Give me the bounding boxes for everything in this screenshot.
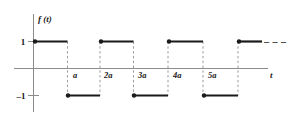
y-tick-label-positive-one: 1 [21,37,26,47]
continuation-ellipsis: – – – [263,36,287,47]
x-tick-label-4a: 4a [172,70,182,80]
dot-high-3 [167,39,171,43]
y-tick-label-negative-one: –1 [16,91,27,101]
dot-low-3 [202,93,206,97]
x-tick-label-5a: 5a [208,70,217,80]
x-tick-label-3a: 3a [137,70,147,80]
dot-high-2 [99,39,103,43]
dot-high-4 [237,39,241,43]
x-tick-label-2a: 2a [103,70,113,80]
dot-high-1 [33,39,37,43]
dot-low-2 [132,93,136,97]
square-wave-plot: – – – f (t) t 1 –1 a 2a 3a 4a 5a [0,0,289,121]
y-axis-label: f (t) [38,14,52,24]
dot-low-1 [66,93,70,97]
figure-square-wave: – – – f (t) t 1 –1 a 2a 3a 4a 5a [0,0,289,121]
